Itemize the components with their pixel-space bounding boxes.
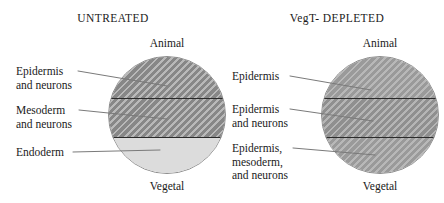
annotation-epidermis-and-neurons: Epidermis and neurons [232, 103, 318, 130]
embryo-band-endoderm [109, 137, 225, 174]
embryo-diagram-vegt-depleted [321, 56, 439, 174]
pole-label-animal-vegt-depleted: Animal [320, 37, 440, 49]
pole-label-vegetal-untreated: Vegetal [107, 180, 227, 192]
annotation-epidermis-mesoderm-and-neurons: Epidermis, mesoderm, and neurons [232, 142, 318, 183]
annotation-mesoderm-and-neurons: Mesoderm and neurons [16, 104, 102, 131]
panel-vegt-depleted: VegT- DEPLETED Animal Epidermis Epidermi… [222, 0, 444, 203]
panel-title-untreated: UNTREATED [38, 12, 188, 24]
pole-label-vegetal-vegt-depleted: Vegetal [320, 180, 440, 192]
annotation-endoderm: Endoderm [16, 146, 102, 160]
embryo-band-epidermis-and-neurons [109, 57, 225, 98]
pole-label-animal-untreated: Animal [107, 37, 227, 49]
panel-untreated: UNTREATED Animal Epidermis and neurons M… [0, 0, 222, 203]
embryo-band-epidermis-and-neurons [322, 98, 438, 137]
annotation-epidermis: Epidermis [232, 70, 318, 84]
embryo-band-epidermis-mesoderm-and-neurons [322, 137, 438, 174]
embryo-diagram-untreated [108, 56, 226, 174]
embryo-band-epidermis [322, 57, 438, 98]
annotation-epidermis-and-neurons: Epidermis and neurons [16, 65, 102, 92]
embryo-band-mesoderm-and-neurons [109, 98, 225, 137]
panel-title-vegt-depleted: VegT- DEPLETED [252, 12, 422, 24]
